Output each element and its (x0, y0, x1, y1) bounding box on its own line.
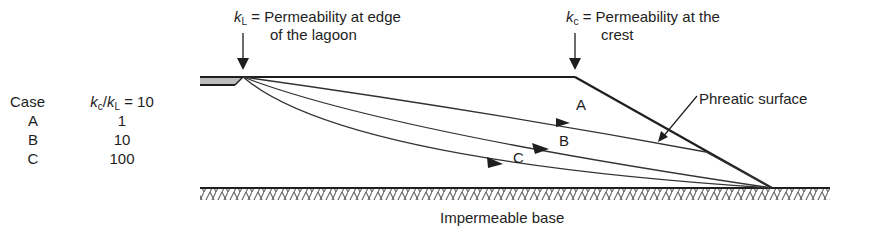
case-table: Case kc/kL = 10 A 1 B 10 C 100 (10, 92, 168, 168)
kl-symbol: k (234, 8, 242, 25)
kl-pointer-arrow (237, 33, 249, 70)
arrow-icon (532, 143, 549, 154)
phreatic-curve-a (243, 77, 772, 188)
table-row: A 1 (10, 111, 168, 130)
value-cell: 100 (76, 150, 168, 167)
embankment-outline (243, 77, 772, 188)
kc-label: kc = Permeability at the (566, 8, 720, 25)
curve-label-c: C (513, 149, 524, 166)
kc-text-line1: = Permeability at the (579, 8, 720, 25)
phreatic-curve-b (243, 77, 772, 188)
arrow-icon (556, 118, 570, 127)
phreatic-surface-label: Phreatic surface (699, 90, 807, 107)
ratio-eq: = 10 (120, 93, 154, 110)
table-row: B 10 (10, 130, 168, 149)
impermeable-base-label: Impermeable base (440, 209, 564, 226)
kl-label: kL = Permeability at edge (234, 8, 401, 25)
table-row: C 100 (10, 149, 168, 168)
value-cell: 1 (76, 112, 168, 129)
ratio-k1: k (90, 93, 98, 110)
kl-label-line2: of the lagoon (270, 26, 357, 43)
curve-label-a: A (576, 96, 586, 113)
header-ratio: kc/kL = 10 (76, 93, 168, 110)
case-table-header: Case kc/kL = 10 (10, 92, 168, 111)
lagoon-edge (200, 77, 243, 85)
value-cell: 10 (76, 131, 168, 148)
case-cell: C (10, 150, 56, 167)
case-cell: A (10, 112, 56, 129)
kc-label-line2: crest (601, 26, 634, 43)
impermeable-base-hatch (200, 189, 830, 200)
header-case: Case (10, 93, 56, 110)
kc-symbol: k (566, 8, 574, 25)
case-cell: B (10, 131, 56, 148)
kl-text-line1: = Permeability at edge (247, 8, 401, 25)
phreatic-curve-c (243, 77, 772, 188)
kc-pointer-arrow (569, 33, 581, 70)
curve-label-b: B (559, 132, 569, 149)
